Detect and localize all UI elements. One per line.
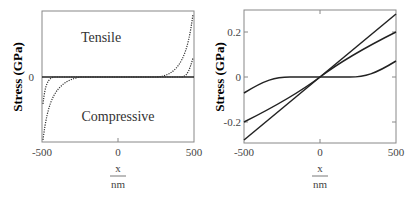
left-xtick-min: -500	[32, 146, 53, 158]
right-ytick-pos: 0.2	[227, 26, 241, 38]
compressive-annotation: Compressive	[81, 109, 154, 124]
left-chart: Stress (GPa) 0 -500 0 500 x nm Tensile C…	[0, 0, 210, 198]
right-xlabel-numerator: x	[317, 162, 323, 174]
tensile-annotation: Tensile	[81, 30, 121, 45]
left-y-axis-label: Stress (GPa)	[10, 42, 25, 111]
cubic-flat-curve	[244, 61, 396, 93]
left-xlabel-denominator: nm	[111, 178, 126, 190]
narrow-onset-curve	[43, 58, 193, 104]
right-xtick-mid: 0	[317, 146, 323, 158]
left-ytick-0: 0	[29, 71, 35, 83]
right-xlabel-denominator: nm	[313, 178, 328, 190]
right-xtick-min: -500	[234, 146, 255, 158]
right-ytick-0: 0	[236, 71, 242, 83]
left-xtick-mid: 0	[115, 146, 121, 158]
right-chart: Stress (GPa) 0.2 0 -0.2 -500 0 500 x nm	[210, 0, 418, 198]
right-xtick-max: 500	[388, 146, 405, 158]
left-xlabel-numerator: x	[115, 162, 121, 174]
right-ytick-neg: -0.2	[224, 116, 241, 128]
left-xtick-max: 500	[186, 146, 203, 158]
right-series	[244, 14, 396, 140]
right-y-axis-label: Stress (GPa)	[212, 42, 227, 111]
